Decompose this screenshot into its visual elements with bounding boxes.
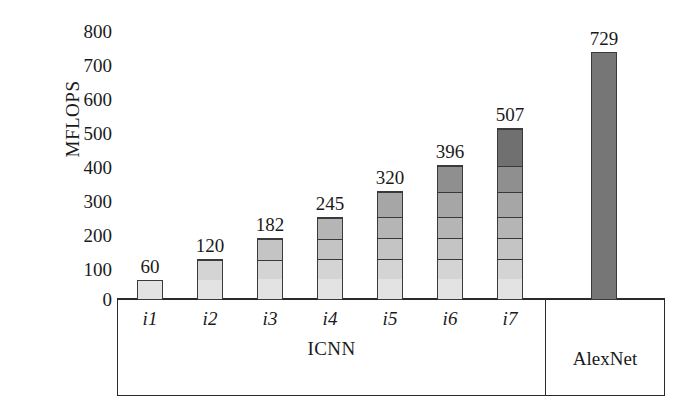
- bar-segment: [258, 279, 282, 299]
- bar-segment: [318, 259, 342, 279]
- bar-segment: [438, 238, 462, 259]
- bar-segment: [378, 279, 402, 299]
- bar-segment: [498, 129, 522, 166]
- bar-segment: [198, 260, 222, 279]
- y-tick-300: 300: [56, 192, 112, 211]
- value-label-i3: 182: [240, 215, 300, 234]
- bar-segment: [498, 238, 522, 259]
- bar-segment: [318, 239, 342, 260]
- value-label-i5: 320: [360, 168, 420, 187]
- value-label-i1: 60: [120, 257, 180, 276]
- bar-segment: [378, 192, 402, 217]
- bar-segment: [198, 280, 222, 299]
- bar-i5: [377, 191, 403, 300]
- category-label-i7: i7: [480, 308, 540, 330]
- bar-i7: [497, 128, 523, 300]
- bar-segment: [498, 259, 522, 279]
- bar-segment: [258, 260, 282, 280]
- plot-area: 60120182245320396507729: [117, 20, 665, 300]
- bar-i1: [137, 280, 163, 300]
- y-axis-tick-labels: 800 700 600 500 400 300 200 100 0: [52, 0, 112, 420]
- y-tick-600: 600: [56, 90, 112, 109]
- bar-segment: [258, 239, 282, 259]
- bar-segment: [438, 217, 462, 238]
- bar-segment: [318, 279, 342, 299]
- bar-segment: [438, 259, 462, 279]
- y-tick-400: 400: [56, 158, 112, 177]
- bar-i4: [317, 217, 343, 300]
- category-label-i3: i3: [240, 308, 300, 330]
- category-label-i6: i6: [420, 308, 480, 330]
- bar-segment: [498, 166, 522, 192]
- bar-alexnet: [591, 52, 617, 300]
- bar-segment: [378, 217, 402, 238]
- bar-segment: [378, 259, 402, 279]
- y-tick-200: 200: [56, 226, 112, 245]
- x-axis-title-icnn: ICNN: [117, 338, 546, 360]
- y-tick-700: 700: [56, 56, 112, 75]
- y-tick-0: 0: [56, 290, 112, 309]
- bar-segment: [498, 192, 522, 217]
- bar-segment: [438, 192, 462, 217]
- category-label-i1: i1: [120, 308, 180, 330]
- bar-segment: [318, 218, 342, 239]
- value-label-i4: 245: [300, 194, 360, 213]
- bar-segment: [498, 217, 522, 238]
- bar-i2: [197, 259, 223, 300]
- value-label-i2: 120: [180, 236, 240, 255]
- bar-segment: [438, 166, 462, 191]
- category-label-i4: i4: [300, 308, 360, 330]
- bar-i6: [437, 165, 463, 300]
- bar-chart-figure: MFLOPS 800 700 600 500 400 300 200 100 0…: [0, 0, 674, 420]
- x-axis-title-alexnet: AlexNet: [545, 348, 665, 370]
- value-label-i6: 396: [420, 142, 480, 161]
- category-label-i5: i5: [360, 308, 420, 330]
- y-tick-800: 800: [56, 22, 112, 41]
- category-label-i2: i2: [180, 308, 240, 330]
- bar-segment: [498, 279, 522, 299]
- value-label-alexnet: 729: [574, 29, 634, 48]
- y-tick-100: 100: [56, 260, 112, 279]
- category-axis-boxes: i1i2i3i4i5i6i7 ICNN AlexNet: [117, 300, 665, 396]
- value-label-i7: 507: [480, 105, 540, 124]
- bar-segment: [138, 281, 162, 299]
- bar-segment: [378, 238, 402, 259]
- bar-i3: [257, 238, 283, 300]
- y-tick-500: 500: [56, 124, 112, 143]
- bar-segment: [438, 279, 462, 299]
